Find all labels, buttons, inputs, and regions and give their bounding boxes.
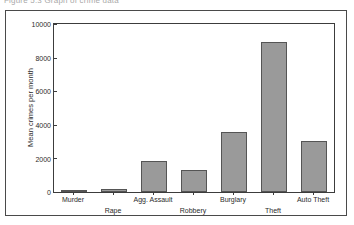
x-axis-tick-mark xyxy=(153,192,154,195)
x-axis-label-slot: Murder xyxy=(53,196,93,220)
x-axis-label-slot: Robbery xyxy=(173,196,213,220)
y-axis-tick: 4000 xyxy=(35,116,54,134)
figure-frame: Mean crimes per month 020004000600080001… xyxy=(5,10,347,216)
x-axis-label: Robbery xyxy=(180,207,206,214)
x-axis-label: Murder xyxy=(62,196,84,203)
bar[interactable] xyxy=(261,42,287,192)
x-axis-labels: MurderRapeAgg. AssaultRobberyBurglaryThe… xyxy=(53,196,333,220)
x-axis-label: Theft xyxy=(265,207,281,214)
x-axis-label-slot: Rape xyxy=(93,196,133,220)
x-axis-label-slot: Theft xyxy=(253,196,293,220)
x-axis-label-slot: Agg. Assault xyxy=(133,196,173,220)
bar-series xyxy=(54,24,334,192)
bar-chart: Mean crimes per month 020004000600080001… xyxy=(6,11,348,217)
bar-slot xyxy=(174,24,214,192)
bar[interactable] xyxy=(301,141,327,192)
x-axis-tick-mark xyxy=(233,192,234,195)
x-axis-label: Agg. Assault xyxy=(134,196,173,203)
x-axis-label-slot: Auto Theft xyxy=(293,196,333,220)
x-axis-tick-mark xyxy=(73,192,74,195)
bar-slot xyxy=(54,24,94,192)
bar-slot xyxy=(94,24,134,192)
bar[interactable] xyxy=(221,132,247,192)
x-axis-tick-mark xyxy=(273,192,274,195)
y-axis-title: Mean crimes per month xyxy=(26,53,35,163)
bar-slot xyxy=(214,24,254,192)
bar-slot xyxy=(254,24,294,192)
y-axis-tick-label: 10000 xyxy=(32,21,51,28)
x-axis-tick-mark xyxy=(313,192,314,195)
y-axis-tick-label: 6000 xyxy=(35,88,51,95)
plot-area: 0200040006000800010000 xyxy=(53,23,335,193)
y-axis-tick: 2000 xyxy=(35,149,54,167)
y-axis-tick-label: 2000 xyxy=(35,156,51,163)
y-axis-tick-label: 4000 xyxy=(35,122,51,129)
figure-caption: Figure 5.3 Graph of crime data xyxy=(4,0,119,5)
bar-slot xyxy=(134,24,174,192)
y-axis-tick: 10000 xyxy=(32,15,54,33)
bar-slot xyxy=(294,24,334,192)
x-axis-tick-mark xyxy=(113,192,114,195)
x-axis-label: Burglary xyxy=(220,196,246,203)
x-axis-label: Auto Theft xyxy=(297,196,329,203)
x-axis-tick-mark xyxy=(193,192,194,195)
x-axis-label-slot: Burglary xyxy=(213,196,253,220)
bar[interactable] xyxy=(141,161,167,192)
y-axis-tick: 6000 xyxy=(35,82,54,100)
x-axis-label: Rape xyxy=(105,207,122,214)
y-axis-tick-label: 8000 xyxy=(35,55,51,62)
y-axis-tick-label: 0 xyxy=(47,189,51,196)
bar[interactable] xyxy=(181,170,207,192)
y-axis-tick: 8000 xyxy=(35,49,54,67)
